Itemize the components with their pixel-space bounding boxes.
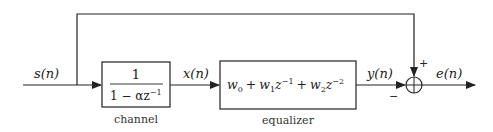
channel-output-label: x(n) <box>183 66 209 81</box>
block-diagram: s(n) 1 1 − αz−1 channel x(n) w0+w1z−1+w2… <box>0 0 493 132</box>
channel-numerator: 1 <box>132 67 140 82</box>
equalizer-output-label: y(n) <box>366 66 393 81</box>
channel-label: channel <box>114 113 158 126</box>
summing-junction <box>406 77 422 93</box>
input-signal-label: s(n) <box>34 66 59 81</box>
minus-sign: − <box>389 90 398 103</box>
error-output-label: e(n) <box>436 66 462 81</box>
plus-sign: + <box>419 57 428 70</box>
equalizer-label: equalizer <box>262 114 315 127</box>
